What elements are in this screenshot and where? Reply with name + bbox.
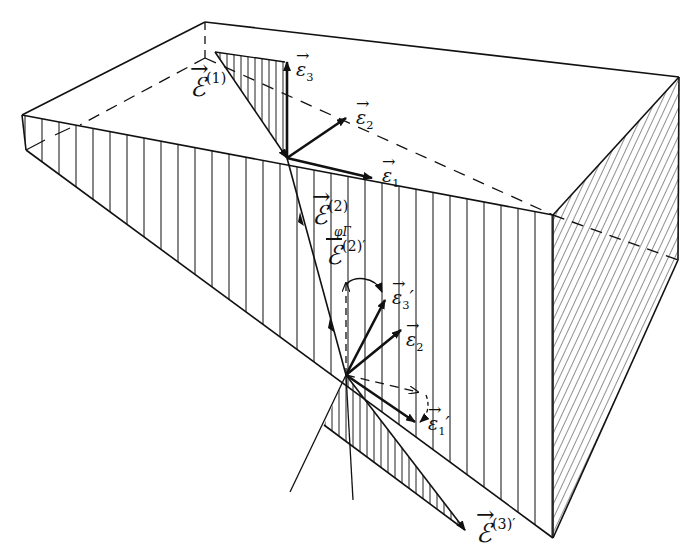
label-e2prime: ε2: [406, 330, 423, 353]
label-E1: ℰ(1): [190, 74, 226, 100]
right-face: [553, 77, 679, 538]
label-E2prime-overscript: φΓ: [334, 226, 351, 238]
label-e3: ε3: [296, 60, 313, 83]
label-e1: ε1: [382, 166, 399, 189]
label-E3prime: ℰ(3)′: [476, 520, 516, 546]
incident-wave-triangle: [215, 52, 287, 158]
label-E2prime: ℰ(2)′: [326, 242, 366, 268]
crystal-diagram: [0, 0, 700, 559]
label-e1prime: ε1′: [428, 414, 450, 437]
label-e2: ε2: [356, 108, 373, 131]
label-e3prime: ε3′: [392, 288, 414, 311]
